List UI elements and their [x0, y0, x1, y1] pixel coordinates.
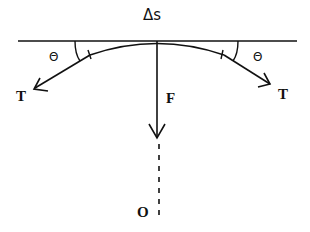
tension-left-vector	[35, 55, 90, 88]
force-label: F	[166, 90, 175, 107]
diagram-canvas	[0, 0, 310, 232]
tick-right	[221, 50, 223, 59]
tension-right-label: T	[278, 86, 288, 103]
arc-length-label: Δs	[143, 6, 161, 24]
angle-left-label: Θ	[49, 50, 58, 64]
tension-left-label: T	[16, 88, 26, 105]
tension-right-vector	[224, 55, 270, 84]
center-label: O	[137, 204, 149, 221]
angle-arc-left	[75, 41, 80, 61]
angle-arc-right	[233, 41, 238, 61]
angle-right-label: Θ	[253, 50, 262, 64]
